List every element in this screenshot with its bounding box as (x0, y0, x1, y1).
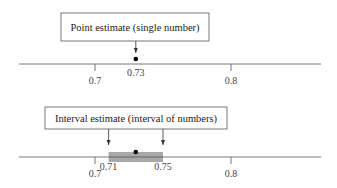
interval-upper-label: 0.75 (154, 161, 172, 172)
interval-lower-arrowhead (107, 140, 111, 145)
point-estimate-panel: Point estimate (single number) 0.70.8 0.… (19, 13, 321, 86)
point-estimate-dot (134, 57, 139, 62)
point-estimate-label: Point estimate (single number) (70, 22, 200, 34)
interval-estimate-panel: Interval estimate (interval of numbers) … (19, 107, 321, 179)
point-estimate-value-label: 0.73 (127, 67, 145, 78)
tick-label: 0.8 (225, 75, 238, 86)
tick-label: 0.8 (225, 168, 238, 179)
interval-upper-arrowhead (161, 140, 165, 145)
interval-lower-label: 0.71 (100, 161, 118, 172)
point-estimate-arrowhead (134, 48, 138, 53)
interval-estimate-label: Interval estimate (interval of numbers) (55, 113, 218, 125)
interval-estimate-dot (134, 150, 139, 155)
tick-label: 0.7 (89, 75, 102, 86)
estimate-diagram: Point estimate (single number) 0.70.8 0.… (0, 0, 337, 188)
